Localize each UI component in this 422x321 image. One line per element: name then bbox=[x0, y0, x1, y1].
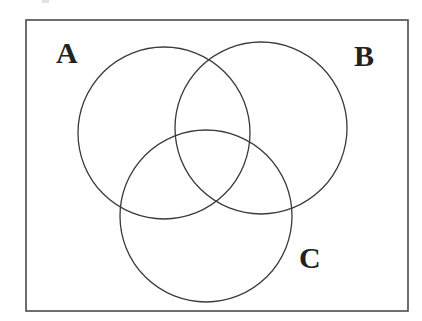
set-circle-a bbox=[78, 47, 250, 219]
set-label-a: A bbox=[56, 38, 78, 68]
set-label-b: B bbox=[354, 41, 374, 71]
universal-set-rectangle bbox=[26, 20, 408, 311]
venn-diagram-figure: A B C bbox=[0, 0, 422, 321]
set-label-c: C bbox=[299, 243, 321, 273]
set-circle-b bbox=[175, 42, 347, 214]
set-circle-c bbox=[120, 130, 292, 302]
